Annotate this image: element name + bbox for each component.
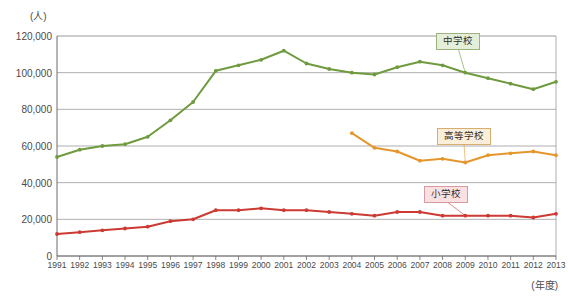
data-point xyxy=(486,214,490,218)
data-point xyxy=(395,65,399,69)
data-point xyxy=(237,63,241,67)
data-point xyxy=(441,157,445,161)
data-point xyxy=(169,219,173,223)
chart-container: (人) 020,00040,00060,00080,000100,000120,… xyxy=(0,0,568,296)
data-point xyxy=(373,214,377,218)
data-point xyxy=(214,208,218,212)
series-line-2 xyxy=(57,208,556,234)
data-point xyxy=(146,225,150,229)
data-point xyxy=(418,159,422,163)
x-tick-label: 1999 xyxy=(229,260,248,270)
data-point xyxy=(282,49,286,53)
gridlines xyxy=(57,36,556,256)
x-tick-label: 2007 xyxy=(410,260,429,270)
x-tick-label: 2013 xyxy=(547,260,566,270)
x-tick-label: 1998 xyxy=(206,260,225,270)
data-point xyxy=(123,227,127,231)
data-point xyxy=(486,76,490,80)
x-axis-unit-label: (年度) xyxy=(531,277,558,292)
x-tick-label: 2011 xyxy=(501,260,519,270)
data-point xyxy=(55,155,59,159)
data-point xyxy=(554,153,558,157)
x-tick-label: 2001 xyxy=(274,260,293,270)
data-point xyxy=(282,208,286,212)
data-point xyxy=(395,150,399,154)
x-tick-label: 2002 xyxy=(297,260,316,270)
data-point xyxy=(169,118,173,122)
data-point xyxy=(327,210,331,214)
data-point xyxy=(259,206,263,210)
data-point xyxy=(531,150,535,154)
data-point xyxy=(418,210,422,214)
x-tick-label: 1991 xyxy=(48,260,67,270)
data-point xyxy=(486,153,490,157)
x-tick-label: 2010 xyxy=(478,260,497,270)
data-point xyxy=(554,212,558,216)
data-point xyxy=(327,67,331,71)
data-point xyxy=(305,62,309,66)
data-point xyxy=(101,228,105,232)
data-point xyxy=(146,135,150,139)
x-tick-label: 2005 xyxy=(365,260,384,270)
x-tick-label: 1996 xyxy=(161,260,180,270)
data-point xyxy=(441,214,445,218)
x-tick-label: 1993 xyxy=(93,260,112,270)
data-point xyxy=(418,60,422,64)
data-point xyxy=(78,148,82,152)
data-point xyxy=(463,71,467,75)
data-point xyxy=(350,131,354,135)
data-point xyxy=(531,87,535,91)
data-point xyxy=(509,214,513,218)
series-callout-elementary: 小学校 xyxy=(424,186,468,203)
data-point xyxy=(191,217,195,221)
data-point xyxy=(509,82,513,86)
data-point xyxy=(78,230,82,234)
data-point xyxy=(395,210,399,214)
x-tick-label: 1997 xyxy=(184,260,203,270)
x-tick-label: 1995 xyxy=(138,260,157,270)
x-tick-label: 2000 xyxy=(252,260,271,270)
callout-leader-line xyxy=(458,48,465,73)
series-callout-junior-high: 中学校 xyxy=(436,33,480,50)
data-point xyxy=(531,216,535,220)
data-point xyxy=(509,151,513,155)
x-tick-label: 2006 xyxy=(388,260,407,270)
x-tick-label: 2012 xyxy=(524,260,543,270)
x-tick-label: 1994 xyxy=(116,260,135,270)
data-point xyxy=(350,71,354,75)
data-point xyxy=(123,142,127,146)
data-point xyxy=(554,80,558,84)
x-tick-label: 2003 xyxy=(320,260,339,270)
x-tick-label: 1992 xyxy=(70,260,89,270)
data-point xyxy=(214,69,218,73)
data-point xyxy=(55,232,59,236)
data-point xyxy=(305,208,309,212)
data-point xyxy=(441,63,445,67)
data-point xyxy=(101,144,105,148)
data-point xyxy=(350,212,354,216)
x-tick-label: 2009 xyxy=(456,260,475,270)
data-point xyxy=(373,73,377,77)
data-point xyxy=(237,208,241,212)
x-tick-label: 2008 xyxy=(433,260,452,270)
data-point xyxy=(373,146,377,150)
series-callout-high-school: 高等学校 xyxy=(437,128,491,145)
data-point xyxy=(191,100,195,104)
x-tick-label: 2004 xyxy=(342,260,361,270)
chart-plot-area xyxy=(0,0,568,296)
data-point xyxy=(259,58,263,62)
